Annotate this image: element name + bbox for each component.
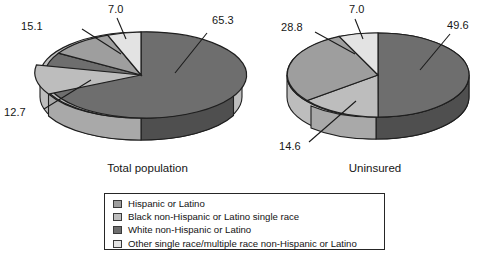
chart-canvas: 65.3 15.1 7.0 12.7 49.6 bbox=[0, 0, 477, 274]
pie-chart-uninsured bbox=[283, 17, 473, 147]
legend-label-white: White non-Hispanic or Latino bbox=[128, 225, 251, 235]
legend-item-hispanic[interactable]: Hispanic or Latino bbox=[113, 198, 384, 211]
chart-legend: Hispanic or Latino Black non-Hispanic or… bbox=[104, 193, 385, 250]
pie-svg-total-population bbox=[35, 17, 247, 147]
legend-item-white[interactable]: White non-Hispanic or Latino bbox=[113, 224, 384, 237]
caption-uninsured: Uninsured bbox=[320, 162, 430, 175]
value-label-total-white: 65.3 bbox=[212, 14, 234, 26]
legend-label-other: Other single race/multiple race non-Hisp… bbox=[128, 239, 357, 249]
value-label-total-other: 7.0 bbox=[108, 3, 124, 15]
legend-swatch-white-icon bbox=[113, 226, 122, 234]
value-label-total-hispanic: 15.1 bbox=[21, 20, 43, 32]
value-label-uninsured-other: 7.0 bbox=[349, 3, 365, 15]
value-label-uninsured-black: 14.6 bbox=[279, 140, 301, 152]
value-label-total-black: 12.7 bbox=[4, 106, 26, 118]
pie-chart-total-population bbox=[35, 17, 247, 147]
legend-swatch-black-icon bbox=[113, 213, 122, 221]
legend-swatch-hispanic-icon bbox=[113, 200, 122, 208]
legend-swatch-other-icon bbox=[113, 240, 122, 248]
value-label-uninsured-white: 49.6 bbox=[447, 19, 469, 31]
caption-total-population: Total population bbox=[80, 162, 215, 175]
legend-item-other[interactable]: Other single race/multiple race non-Hisp… bbox=[113, 237, 384, 250]
legend-label-hispanic: Hispanic or Latino bbox=[128, 199, 205, 209]
value-label-uninsured-hispanic: 28.8 bbox=[281, 21, 303, 33]
legend-label-black: Black non-Hispanic or Latino single race bbox=[128, 212, 299, 222]
legend-item-black[interactable]: Black non-Hispanic or Latino single race bbox=[113, 211, 384, 224]
pie-svg-uninsured bbox=[283, 17, 473, 147]
